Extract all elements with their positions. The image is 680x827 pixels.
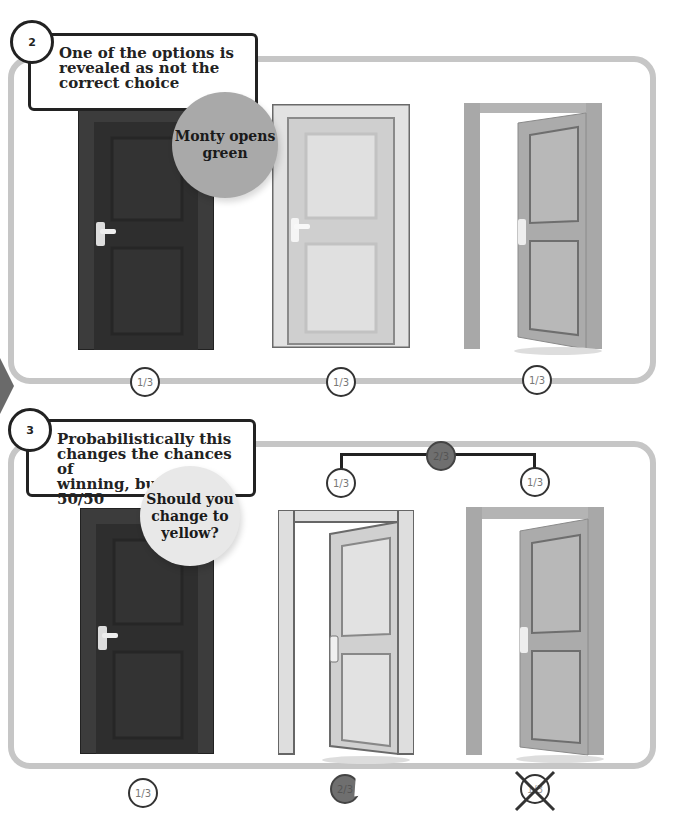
step-3-prob-left: 1/3 xyxy=(128,778,158,808)
door-right-open xyxy=(464,103,602,355)
step-2-prob-right: 1/3 xyxy=(522,365,552,395)
door-right-open xyxy=(466,507,604,763)
step-2-number: 2 xyxy=(10,20,54,64)
bubble-line: green xyxy=(175,145,276,162)
door-middle-light-open xyxy=(278,510,414,766)
bubble-line: Monty opens xyxy=(175,128,276,145)
bracket-left-prob: 1/3 xyxy=(326,468,356,498)
step-2-prob-left: 1/3 xyxy=(130,367,160,397)
step-3-bubble: Should you change to yellow? xyxy=(140,466,240,566)
cross-out-icon xyxy=(512,768,558,814)
transfer-arrow xyxy=(354,775,455,804)
step-2-prob-middle: 1/3 xyxy=(326,367,356,397)
bubble-line: change to xyxy=(146,508,233,525)
bracket-combined-prob: 2/3 xyxy=(426,441,456,471)
bubble-line: Should you xyxy=(146,491,233,508)
bracket-right-prob: 1/3 xyxy=(520,467,550,497)
door-middle-light xyxy=(272,104,410,348)
step-2-bubble: Monty opens green xyxy=(172,92,278,198)
bubble-line: yellow? xyxy=(146,525,233,542)
caption-line: correct choice xyxy=(59,76,237,91)
step-3-number: 3 xyxy=(8,408,52,452)
